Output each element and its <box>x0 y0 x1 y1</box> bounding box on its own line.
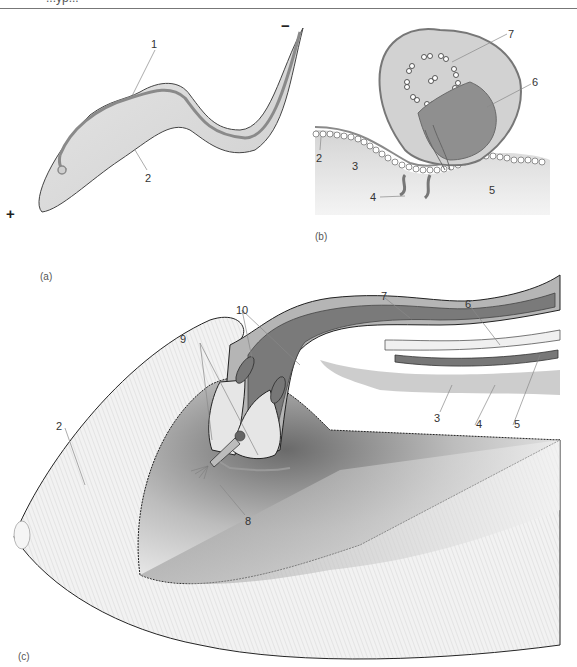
callout-c-3: 3 <box>434 412 440 424</box>
panel-a-label: (a) <box>40 271 52 282</box>
callout-b-4: 4 <box>370 191 376 203</box>
callout-c-8: 8 <box>245 515 251 527</box>
callout-b-7: 7 <box>508 28 514 40</box>
callout-b-6: 6 <box>532 76 538 88</box>
callout-c-6: 6 <box>465 298 471 310</box>
callout-b-2: 2 <box>316 152 322 164</box>
callout-a-2: 2 <box>145 172 151 184</box>
panel-b-attachment: 7 6 2 3 4 5 (b) <box>313 28 550 242</box>
panel-c-flagellar-pocket: 10 9 2 8 7 6 3 4 5 (c) <box>14 275 560 662</box>
polarity-minus: − <box>281 17 290 34</box>
panel-b-label: (b) <box>315 231 327 242</box>
callout-b-5: 5 <box>489 184 495 196</box>
figure-canvas: 1 2 + − (a) <box>0 0 577 667</box>
panel-c-label: (c) <box>18 651 30 662</box>
callout-b-3: 3 <box>352 160 358 172</box>
paraflagellar-rod <box>385 330 560 350</box>
callout-c-4: 4 <box>476 418 482 430</box>
callout-c-2: 2 <box>56 420 62 432</box>
callout-c-5: 5 <box>514 418 520 430</box>
posterior-tip <box>14 521 30 549</box>
callout-c-9: 9 <box>180 333 186 345</box>
callout-c-7: 7 <box>381 290 387 302</box>
panel-a-trypanosome: 1 2 + − (a) <box>6 17 303 282</box>
polarity-plus: + <box>6 205 15 222</box>
callout-c-10: 10 <box>236 304 248 316</box>
callout-a-1: 1 <box>151 38 157 50</box>
